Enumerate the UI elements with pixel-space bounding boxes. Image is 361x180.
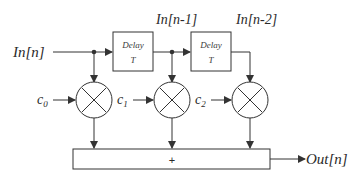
multiplier-0 (76, 82, 112, 118)
multiplier-2 (232, 82, 268, 118)
delay-2-output-label: In[n-2] (235, 12, 277, 27)
delay-1-output-label: In[n-1] (155, 12, 197, 27)
summer-block: + (73, 149, 270, 169)
coefficient-2-label: c2 (195, 92, 206, 109)
fir-filter-diagram: In[n] Delay T In[n-1] Delay T In[n-2] (0, 0, 361, 180)
coefficient-0-label: c0 (37, 92, 48, 109)
multiplier-1 (154, 82, 190, 118)
tap-line-2 (231, 52, 250, 82)
delay-block-1: Delay T (113, 32, 153, 71)
svg-text:Delay: Delay (121, 40, 144, 50)
svg-text:Delay: Delay (199, 40, 222, 50)
output-label: Out[n] (306, 151, 348, 167)
svg-text:+: + (169, 154, 175, 166)
delay-block-2: Delay T (191, 32, 231, 71)
coefficient-1-label: c1 (117, 92, 128, 109)
input-label: In[n] (12, 44, 45, 60)
